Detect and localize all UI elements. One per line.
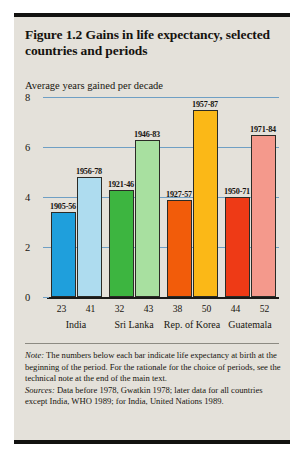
bar-period-label: 1971-84	[250, 125, 276, 134]
y-tick-label-0: 0	[25, 292, 43, 303]
y-tick-mark-6	[43, 147, 49, 148]
life-expectancy-value: 44	[231, 303, 241, 314]
bottom-rule	[14, 440, 290, 444]
chart-plot-area: 1905-561956-781921-461946-831927-571957-…	[25, 97, 281, 297]
bar: 1905-56	[51, 212, 76, 297]
life-expectancy-value: 52	[260, 303, 270, 314]
y-tick-mark-2	[43, 247, 49, 248]
bar-series: 1905-561956-781921-461946-831927-571957-…	[47, 97, 279, 297]
plot-inner: 1905-561956-781921-461946-831927-571957-…	[47, 97, 279, 297]
y-tick-label-6: 6	[25, 142, 43, 153]
figure-container: Figure 1.2 Gains in life expectancy, sel…	[0, 0, 304, 457]
y-tick-mark-8	[43, 97, 49, 98]
note-divider	[25, 343, 279, 344]
figure-panel: Figure 1.2 Gains in life expectancy, sel…	[14, 17, 290, 440]
x-axis-values: 3243	[105, 298, 163, 314]
sources-line: Sources: Data before 1978, Gwatkin 1978;…	[25, 385, 281, 408]
life-expectancy-value: 23	[57, 303, 67, 314]
bar-period-label: 1905-56	[50, 202, 76, 211]
bar-period-label: 1921-46	[108, 180, 134, 189]
country-label: India	[47, 314, 105, 330]
y-tick-label-4: 4	[25, 192, 43, 203]
bar: 1971-84	[251, 135, 276, 298]
bar: 1950-71	[225, 197, 250, 297]
x-axis-values: 4452	[221, 298, 279, 314]
figure-notes: Note: The numbers below each bar indicat…	[25, 350, 281, 408]
bar-period-label: 1946-83	[134, 130, 160, 139]
sources-label: Sources:	[25, 385, 55, 395]
bar: 1946-83	[135, 140, 160, 298]
country-label: Sri Lanka	[105, 314, 163, 330]
x-axis-group: 4452Guatemala	[221, 298, 279, 330]
note-line: Note: The numbers below each bar indicat…	[25, 350, 281, 385]
bar: 1921-46	[109, 190, 134, 298]
sources-text: Data before 1978, Gwatkin 1978; later da…	[25, 385, 263, 407]
country-label: Rep. of Korea	[163, 314, 221, 330]
bar: 1957-87	[193, 110, 218, 298]
bar: 1956-78	[77, 177, 102, 297]
x-axis-group: 3850Rep. of Korea	[163, 298, 221, 330]
y-tick-label-2: 2	[25, 242, 43, 253]
bar-period-label: 1957-87	[192, 100, 218, 109]
x-axis-values: 3850	[163, 298, 221, 314]
x-axis-group: 2341India	[47, 298, 105, 330]
y-axis-caption: Average years gained per decade	[25, 80, 163, 91]
life-expectancy-value: 43	[144, 303, 154, 314]
life-expectancy-value: 32	[115, 303, 125, 314]
x-axis-values: 2341	[47, 298, 105, 314]
bar-period-label: 1956-78	[76, 167, 102, 176]
life-expectancy-value: 38	[173, 303, 183, 314]
x-axis-group: 3243Sri Lanka	[105, 298, 163, 330]
figure-title: Figure 1.2 Gains in life expectancy, sel…	[25, 27, 281, 60]
y-tick-mark-4	[43, 197, 49, 198]
bar-period-label: 1927-57	[166, 190, 192, 199]
note-label: Note:	[25, 350, 44, 360]
note-text: The numbers below each bar indicate life…	[25, 350, 281, 383]
country-label: Guatemala	[221, 314, 279, 330]
life-expectancy-value: 41	[86, 303, 96, 314]
life-expectancy-value: 50	[202, 303, 212, 314]
bar-period-label: 1950-71	[224, 187, 250, 196]
y-tick-label-8: 8	[25, 92, 43, 103]
bar: 1927-57	[167, 200, 192, 298]
x-axis-labels: 2341India3243Sri Lanka3850Rep. of Korea4…	[47, 298, 281, 340]
